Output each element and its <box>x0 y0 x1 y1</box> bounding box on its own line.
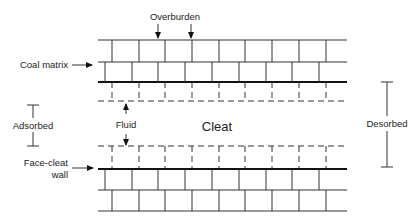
desorbed-label: Desorbed <box>366 118 407 129</box>
face-cleat-label-line2: wall <box>51 169 68 180</box>
adsorbed-label: Adsorbed <box>13 120 54 131</box>
bottom-face-cleat-wall <box>98 146 347 211</box>
coal-matrix-label: Coal matrix <box>20 59 68 70</box>
fluid-label: Fluid <box>116 119 137 130</box>
cleat-label: Cleat <box>202 119 233 134</box>
top-coal-matrix-wall <box>98 40 347 101</box>
coal-cleat-diagram: Overburden Coal matrix Adsorbed Fluid Cl… <box>0 0 420 222</box>
overburden-label: Overburden <box>150 11 200 22</box>
face-cleat-label-line1: Face-cleat <box>24 157 69 168</box>
